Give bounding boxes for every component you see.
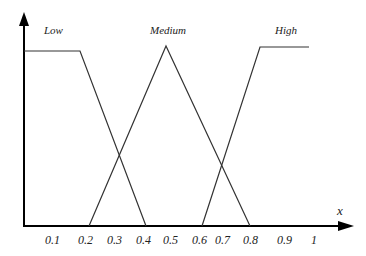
tick-label: 0.7	[215, 233, 231, 247]
medium-label: Medium	[149, 24, 186, 36]
tick-label: 0.3	[107, 233, 122, 247]
low-label: Low	[43, 24, 64, 36]
low-membership-line	[24, 51, 146, 226]
fuzzy-membership-chart: Low Medium High x 0.1 0.2 0.3 0.4 0.5 0.…	[0, 0, 366, 256]
tick-label: 0.2	[78, 233, 93, 247]
tick-label: 0.6	[192, 233, 207, 247]
tick-label: 1	[311, 233, 317, 247]
tick-label: 0.9	[277, 233, 292, 247]
high-membership-line	[202, 47, 309, 226]
tick-label: 0.4	[136, 233, 151, 247]
high-label: High	[274, 24, 298, 36]
medium-membership-line	[89, 46, 250, 226]
tick-label: 0.8	[243, 233, 258, 247]
tick-label: 0.1	[45, 233, 60, 247]
x-axis-arrow-icon	[338, 221, 354, 231]
tick-label: 0.5	[163, 233, 178, 247]
y-axis-arrow-icon	[19, 12, 29, 26]
x-axis-label: x	[336, 203, 343, 218]
